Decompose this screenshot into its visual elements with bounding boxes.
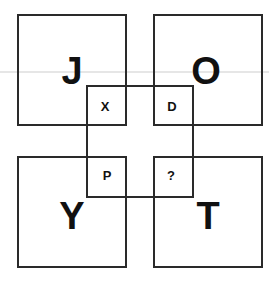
outer-letter-bottom-right: T xyxy=(196,197,219,235)
outer-letter-top-right: O xyxy=(191,52,221,90)
outer-letter-top-left: J xyxy=(61,52,82,90)
outer-letter-bottom-left: Y xyxy=(59,197,84,235)
inner-letter-bottom-right: ? xyxy=(167,169,175,182)
inner-letter-top-right: D xyxy=(167,100,176,113)
inner-letter-top-left: X xyxy=(101,100,110,113)
inner-letter-bottom-left: P xyxy=(103,169,112,182)
